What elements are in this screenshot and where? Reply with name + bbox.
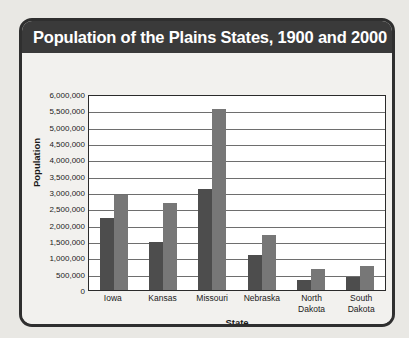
bar: [163, 203, 177, 290]
bar: [297, 280, 311, 290]
x-axis-tick-nebraska: Nebraska: [237, 293, 287, 314]
bar-group-iowa: [100, 96, 128, 290]
y-axis-tick: 500,000: [56, 270, 85, 279]
bar: [248, 255, 262, 290]
plot-area: [88, 95, 386, 291]
y-axis-tick: 6,000,000: [49, 91, 85, 100]
x-axis-tick-north-dakota: NorthDakota: [287, 293, 337, 314]
x-axis-tick-kansas: Kansas: [138, 293, 188, 314]
y-axis-tick-labels: 0500,0001,000,0001,500,0002,000,0002,500…: [40, 95, 85, 291]
y-axis-tick: 3,000,000: [49, 189, 85, 198]
bar: [100, 218, 114, 290]
chart-card: Population of the Plains States, 1900 an…: [19, 18, 395, 327]
y-axis-tick: 1,000,000: [49, 254, 85, 263]
x-axis-tick-line: Iowa: [88, 293, 138, 304]
y-axis-tick: 3,500,000: [49, 172, 85, 181]
x-axis-label: State: [88, 317, 386, 327]
y-axis-tick: 2,000,000: [49, 221, 85, 230]
bar: [360, 266, 374, 290]
bar-group-south-dakota: [346, 96, 374, 290]
y-axis-tick: 4,500,000: [49, 140, 85, 149]
bar-group-missouri: [198, 96, 226, 290]
bar: [114, 195, 128, 290]
bar-group-nebraska: [248, 96, 276, 290]
bar: [198, 189, 212, 290]
bar-group-kansas: [149, 96, 177, 290]
bar: [149, 242, 163, 290]
x-axis-tick-line: Kansas: [138, 293, 188, 304]
y-axis-tick: 1,500,000: [49, 238, 85, 247]
chart-title-bar: Population of the Plains States, 1900 an…: [22, 21, 392, 53]
bars-layer: [89, 96, 385, 290]
x-axis-tick-labels: IowaKansasMissouriNebraskaNorthDakotaSou…: [88, 293, 386, 314]
bar: [262, 235, 276, 290]
x-axis-tick-line: South: [336, 293, 386, 304]
x-axis-tick-line: North: [287, 293, 337, 304]
page-title: Population of the Plains States, 1900 an…: [33, 28, 387, 47]
x-axis-tick-line: Missouri: [187, 293, 237, 304]
x-axis-tick-line: Dakota: [336, 304, 386, 315]
x-axis-tick-line: Dakota: [287, 304, 337, 315]
y-axis-tick: 5,500,000: [49, 107, 85, 116]
y-axis-tick: 2,500,000: [49, 205, 85, 214]
x-axis-tick-iowa: Iowa: [88, 293, 138, 314]
bar: [346, 277, 360, 290]
chart-body: Population 0500,0001,000,0001,500,0002,0…: [22, 53, 392, 327]
bar: [212, 109, 226, 290]
x-axis-tick-south-dakota: SouthDakota: [336, 293, 386, 314]
y-axis-tick: 0: [81, 287, 85, 296]
bar: [311, 269, 325, 290]
y-axis-tick: 4,000,000: [49, 156, 85, 165]
x-axis-tick-missouri: Missouri: [187, 293, 237, 314]
x-axis-tick-line: Nebraska: [237, 293, 287, 304]
bar-group-north-dakota: [297, 96, 325, 290]
y-axis-tick: 5,000,000: [49, 123, 85, 132]
